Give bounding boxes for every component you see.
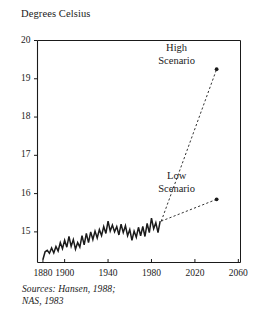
series-endpoint-marker-2 bbox=[215, 197, 219, 201]
x-tick-label: 1980 bbox=[131, 269, 171, 279]
y-tick-label: 17 bbox=[11, 150, 31, 160]
x-tick-label: 2020 bbox=[175, 269, 215, 279]
y-tick-label: 16 bbox=[11, 189, 31, 199]
x-tick-label: 2060 bbox=[218, 269, 258, 279]
series-line-1 bbox=[161, 69, 216, 221]
y-tick-label: 20 bbox=[11, 36, 31, 46]
source-note: Sources: Hansen, 1988; NAS, 1983 bbox=[22, 283, 115, 307]
series-endpoint-marker-1 bbox=[215, 67, 219, 71]
data-series-layer bbox=[43, 67, 219, 259]
x-tick-label: 1900 bbox=[45, 269, 85, 279]
series-line-0 bbox=[43, 218, 160, 259]
x-tick-label: 1940 bbox=[88, 269, 128, 279]
low-scenario-label: Low Scenario bbox=[139, 170, 215, 195]
y-tick-label: 19 bbox=[11, 74, 31, 84]
y-tick-label: 15 bbox=[11, 227, 31, 237]
high-scenario-label: High Scenario bbox=[139, 42, 215, 67]
axis-tick-marks bbox=[34, 41, 238, 263]
series-line-2 bbox=[161, 199, 216, 221]
y-tick-label: 18 bbox=[11, 112, 31, 122]
temperature-projection-chart: Degrees Celsius 201918171615 18801900194… bbox=[0, 0, 264, 317]
